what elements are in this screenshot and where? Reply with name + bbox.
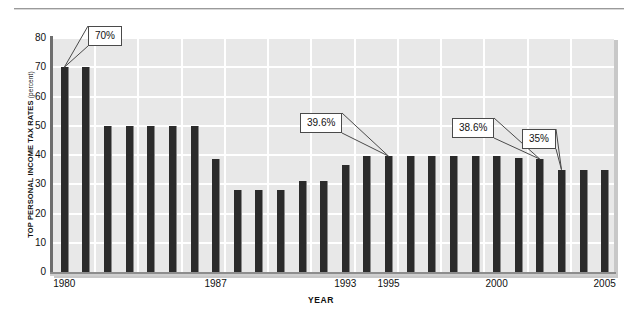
x-tick-label: 1993 <box>334 278 356 289</box>
bar <box>61 67 68 272</box>
bar <box>277 190 284 272</box>
gridline-horizontal <box>52 154 614 156</box>
bar <box>255 190 262 272</box>
gridline-vertical <box>440 38 442 272</box>
bar <box>104 126 111 272</box>
gridline-horizontal <box>52 183 614 185</box>
annotation-callout: 35% <box>522 129 556 149</box>
bar <box>536 159 543 272</box>
gridline-vertical <box>267 38 269 272</box>
annotation-callout: 70% <box>88 26 122 46</box>
gridline-horizontal <box>52 242 614 244</box>
bar <box>299 181 306 272</box>
gridline-vertical <box>397 38 399 272</box>
gridline-vertical <box>527 38 529 272</box>
bar <box>169 126 176 272</box>
gridline-horizontal <box>52 66 614 68</box>
x-axis-title: YEAR <box>0 295 642 305</box>
y-tick-label: 80 <box>16 33 46 43</box>
x-tick-label: 1980 <box>53 278 75 289</box>
bar <box>147 126 154 272</box>
bar <box>450 156 457 272</box>
bar <box>342 165 349 272</box>
bar <box>126 126 133 272</box>
bar <box>82 67 89 272</box>
bar <box>234 190 241 272</box>
gridline-vertical <box>310 38 312 272</box>
bar <box>407 156 414 272</box>
gridline-vertical <box>224 38 226 272</box>
gridline-horizontal <box>52 37 614 39</box>
bar <box>558 170 565 272</box>
x-tick-label: 2005 <box>594 278 616 289</box>
gridlines <box>52 38 614 272</box>
bar <box>580 170 587 272</box>
x-tick-label: 1995 <box>377 278 399 289</box>
gridline-horizontal <box>52 213 614 215</box>
bar <box>493 156 500 272</box>
bar <box>601 170 608 272</box>
annotation-callout: 38.6% <box>452 118 494 138</box>
gridline-vertical <box>354 38 356 272</box>
bar <box>515 158 522 272</box>
gridline-vertical <box>181 38 183 272</box>
bar <box>363 156 370 272</box>
gridline-vertical <box>137 38 139 272</box>
y-axis-title-text: TOP PERSONAL INCOME TAX RATES <box>26 100 35 237</box>
annotation-callout: 39.6% <box>300 113 342 133</box>
bar <box>320 181 327 272</box>
gridline-horizontal <box>52 96 614 98</box>
bar <box>428 156 435 272</box>
y-tick-label: 0 <box>16 267 46 277</box>
y-axis-title: TOP PERSONAL INCOME TAX RATES (percent) <box>26 55 35 255</box>
gridline-vertical <box>483 38 485 272</box>
x-axis-line <box>50 272 616 276</box>
y-axis-line <box>50 36 53 276</box>
chart-page: 01020304050607080 TOP PERSONAL INCOME TA… <box>0 0 642 317</box>
bar <box>472 156 479 272</box>
header-rule <box>14 8 624 10</box>
gridline-vertical <box>94 38 96 272</box>
x-tick-label: 2000 <box>485 278 507 289</box>
plot-area <box>52 38 614 272</box>
bar <box>212 159 219 272</box>
bar <box>191 126 198 272</box>
gridline-vertical <box>570 38 572 272</box>
y-axis-title-unit: (percent) <box>27 71 34 98</box>
bar <box>385 156 392 272</box>
x-tick-label: 1987 <box>204 278 226 289</box>
